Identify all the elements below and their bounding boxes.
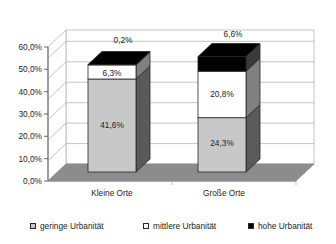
y-tick-label-50: 50,0% xyxy=(18,64,42,74)
chart-legend: geringe Urbanität mittlere Urbanität hoh… xyxy=(0,218,336,234)
bar2-label-hohe: 6,6% xyxy=(224,29,244,39)
legend-label-mittlere: mittlere Urbanität xyxy=(153,221,216,231)
y-tick-label-20: 20,0% xyxy=(18,131,42,141)
legend-item-mittlere-urbanitat[interactable]: mittlere Urbanität xyxy=(143,218,216,234)
bar-grosse-orte[interactable]: 24,3% 20,8% 6,6% xyxy=(198,29,260,172)
bar2-label-mittlere: 20,8% xyxy=(210,89,234,99)
y-tick-label-30: 30,0% xyxy=(18,109,42,119)
legend-swatch-mittlere-icon xyxy=(143,223,149,229)
chart-canvas: 60,0% 50,0% 40,0% 30,0% 20,0% 10,0% 0,0%… xyxy=(0,0,336,244)
bar2-label-geringe: 24,3% xyxy=(210,138,234,148)
bar2-face-hohe xyxy=(198,57,246,72)
legend-item-hohe-urbanitat[interactable]: hohe Urbanität xyxy=(248,218,312,234)
legend-item-geringe-urbanitat[interactable]: geringe Urbanität xyxy=(30,218,104,234)
legend-label-geringe: geringe Urbanität xyxy=(40,221,104,231)
legend-label-hohe: hohe Urbanität xyxy=(258,221,312,231)
urbanity-stacked-bar-chart: 60,0% 50,0% 40,0% 30,0% 20,0% 10,0% 0,0%… xyxy=(0,0,336,244)
y-tick-label-0: 0,0% xyxy=(23,176,43,186)
y-tick-label-60: 60,0% xyxy=(18,42,42,52)
legend-swatch-hohe-icon xyxy=(248,223,254,229)
bar-kleine-orte[interactable]: 41,6% 6,3% 0,2% xyxy=(88,35,150,172)
legend-swatch-geringe-icon xyxy=(30,223,36,229)
bar1-label-geringe: 41,6% xyxy=(100,120,124,130)
x-axis-category-ticks xyxy=(172,181,296,185)
bar1-label-mittlere: 6,3% xyxy=(103,68,123,78)
bar1-label-hohe: 0,2% xyxy=(114,35,134,45)
bar1-side-geringe xyxy=(136,66,150,172)
y-tick-label-40: 40,0% xyxy=(18,87,42,97)
x-label-kleine-orte: Kleine Orte xyxy=(91,188,133,198)
y-tick-label-10: 10,0% xyxy=(18,154,42,164)
x-label-grosse-orte: Große Orte xyxy=(203,188,245,198)
